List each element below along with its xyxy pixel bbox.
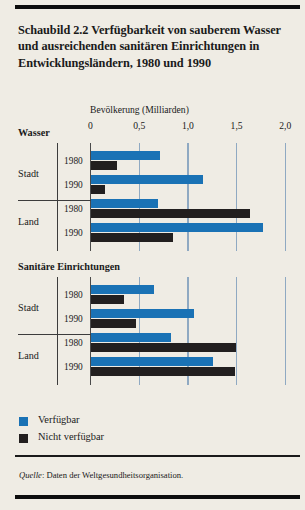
bar-available bbox=[91, 199, 158, 208]
x-tick-label: 0 bbox=[88, 120, 93, 131]
year-label: 1980 bbox=[64, 338, 83, 348]
group-label: Land bbox=[18, 350, 39, 361]
legend-label-available: Verfügbar bbox=[38, 414, 80, 425]
bar-available bbox=[91, 357, 214, 366]
source-text: : Daten der Weltgesundheitsorganisation. bbox=[42, 470, 183, 480]
bar-unavailable bbox=[91, 367, 235, 376]
chart-plot-area: WasserStadtLand1980199019801990Sanitäre … bbox=[0, 137, 305, 407]
bar-unavailable bbox=[91, 295, 124, 304]
source-prefix: Quelle bbox=[19, 470, 42, 480]
year-label: 1990 bbox=[64, 362, 83, 372]
legend-label-unavailable: Nicht verfügbar bbox=[38, 431, 104, 442]
group-divider bbox=[18, 200, 91, 201]
bar-available bbox=[91, 333, 172, 342]
bar-unavailable bbox=[91, 319, 137, 328]
x-axis-title: Bevölkerung (Milliarden) bbox=[90, 104, 189, 115]
bar-available bbox=[91, 285, 154, 294]
gridline bbox=[285, 277, 286, 385]
gridline bbox=[187, 143, 188, 251]
bar-unavailable bbox=[91, 233, 174, 242]
year-label: 1980 bbox=[64, 204, 83, 214]
gridline bbox=[236, 143, 237, 251]
figure-title: Schaubild 2.2 Verfügbarkeit von sauberem… bbox=[18, 22, 290, 71]
year-label: 1990 bbox=[64, 180, 83, 190]
group-label: Land bbox=[18, 216, 39, 227]
year-label: 1980 bbox=[64, 156, 83, 166]
top-rule bbox=[15, 5, 300, 9]
category-divider bbox=[57, 277, 58, 385]
figure-page: Schaubild 2.2 Verfügbarkeit von sauberem… bbox=[0, 0, 305, 510]
group-divider bbox=[18, 334, 91, 335]
bar-unavailable bbox=[91, 343, 236, 352]
x-tick-label: 1,0 bbox=[182, 120, 194, 131]
x-tick-label: 2,0 bbox=[279, 120, 291, 131]
group-label: Stadt bbox=[18, 168, 39, 179]
source-note: Quelle: Daten der Weltgesundheitsorganis… bbox=[19, 470, 183, 480]
legend-swatch-available-icon bbox=[19, 417, 28, 426]
x-tick-label: 0,5 bbox=[133, 120, 145, 131]
gridline bbox=[236, 277, 237, 385]
year-label: 1990 bbox=[64, 314, 83, 324]
group-label: Stadt bbox=[18, 302, 39, 313]
bar-unavailable bbox=[91, 209, 251, 218]
bar-unavailable bbox=[91, 185, 106, 194]
legend-swatch-unavailable-icon bbox=[19, 434, 28, 443]
category-divider bbox=[57, 143, 58, 251]
bar-available bbox=[91, 175, 204, 184]
bar-available bbox=[91, 309, 194, 318]
section-label: Sanitäre Einrichtungen bbox=[18, 261, 120, 272]
bottom-rule bbox=[15, 495, 300, 499]
section-label: Wasser bbox=[18, 127, 50, 138]
year-label: 1990 bbox=[64, 228, 83, 238]
bar-available bbox=[91, 151, 160, 160]
year-label: 1980 bbox=[64, 290, 83, 300]
gridline bbox=[285, 143, 286, 251]
bar-available bbox=[91, 223, 263, 232]
separator-rule bbox=[15, 455, 300, 457]
bar-unavailable bbox=[91, 161, 117, 170]
x-tick-label: 1,5 bbox=[231, 120, 243, 131]
